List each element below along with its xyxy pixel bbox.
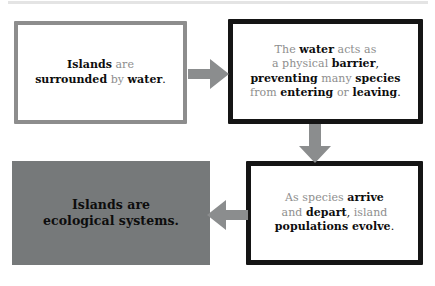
flow-node-populations-evolve: As species arriveand depart, islandpopul…	[246, 161, 423, 265]
top-divider-rule	[8, 1, 428, 4]
flow-node-islands-surrounded: Islands aresurrounded by water.	[14, 21, 187, 124]
arrow-left-icon	[206, 196, 248, 234]
flow-node-water-barrier: The water acts asa physical barrier,prev…	[228, 19, 423, 124]
arrow-down-icon	[296, 124, 334, 164]
flow-node-ecological-systems: Islands areecological systems.	[12, 161, 210, 265]
arrow-right-icon	[188, 55, 230, 93]
flow-node-text: Islands aresurrounded by water.	[29, 58, 172, 87]
flow-node-text: Islands areecological systems.	[37, 197, 185, 229]
flow-node-text: As species arriveand depart, islandpopul…	[269, 191, 400, 235]
flowchart-diagram: Islands aresurrounded by water. The wate…	[0, 0, 435, 286]
flow-node-text: The water acts asa physical barrier,prev…	[244, 43, 407, 101]
